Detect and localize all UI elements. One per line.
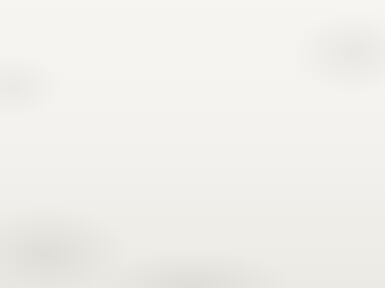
chart-page bbox=[0, 0, 385, 288]
stitch-chart-diagram bbox=[0, 0, 385, 288]
